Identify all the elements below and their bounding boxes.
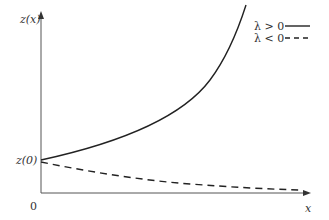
z0-label: z(0) — [16, 155, 37, 166]
y-axis-label: z(x) — [20, 14, 41, 25]
legend-label-lambda-positive: λ > 0 — [254, 21, 284, 32]
legend-label-lambda-negative: λ < 0 — [254, 33, 284, 44]
x-axis-arrow-icon — [303, 190, 311, 196]
series-lambda-positive — [41, 5, 246, 160]
origin-label: 0 — [30, 201, 37, 212]
series-lambda-negative — [41, 162, 300, 190]
x-axis-label: x — [305, 203, 311, 214]
